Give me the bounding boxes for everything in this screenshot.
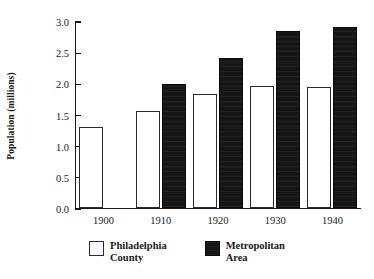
x-tick-label: 1900 <box>93 215 114 226</box>
bar-county-1900 <box>79 127 103 207</box>
legend-swatch-county <box>89 241 104 256</box>
legend-swatch-metro <box>205 241 220 256</box>
bar-county-1910 <box>136 111 160 208</box>
y-tick-label: 3.0 <box>56 17 69 28</box>
legend-label: Metropolitan Area <box>226 240 285 263</box>
y-tick-label: 0.0 <box>56 204 69 215</box>
y-tick-mark <box>75 21 81 22</box>
chart-legend: Philadelphia CountyMetropolitan Area <box>0 240 374 263</box>
x-axis-line <box>75 208 361 209</box>
y-tick-label: 1.0 <box>56 141 69 152</box>
y-tick-label: 2.5 <box>56 48 69 59</box>
bar-metro-1940 <box>333 27 357 207</box>
legend-entry: Metropolitan Area <box>205 240 285 263</box>
bar-county-1930 <box>250 86 274 208</box>
bar-chart-figure: Population (millions) 0.00.51.01.52.02.5… <box>0 0 374 279</box>
bar-county-1940 <box>307 87 331 207</box>
y-tick-mark <box>75 53 81 54</box>
plot-area: 0.00.51.01.52.02.53.0 190019101920193019… <box>75 22 361 209</box>
bar-metro-1930 <box>276 31 300 208</box>
y-tick-mark <box>75 208 81 209</box>
x-tick-label: 1920 <box>208 215 229 226</box>
bar-metro-1910 <box>162 84 186 208</box>
y-axis-title-text: Population (millions) <box>6 72 16 159</box>
x-tick-label: 1940 <box>322 215 343 226</box>
y-tick-mark <box>75 115 81 116</box>
bar-county-1920 <box>193 94 217 207</box>
y-tick-label: 2.0 <box>56 79 69 90</box>
legend-label: Philadelphia County <box>110 240 167 263</box>
x-tick-label: 1930 <box>265 215 286 226</box>
x-tick-label: 1910 <box>150 215 171 226</box>
y-axis-title: Population (millions) <box>2 22 20 209</box>
legend-entry: Philadelphia County <box>89 240 167 263</box>
bar-metro-1920 <box>219 58 243 208</box>
y-tick-label: 0.5 <box>56 172 69 183</box>
y-tick-mark <box>75 84 81 85</box>
y-tick-label: 1.5 <box>56 110 69 121</box>
